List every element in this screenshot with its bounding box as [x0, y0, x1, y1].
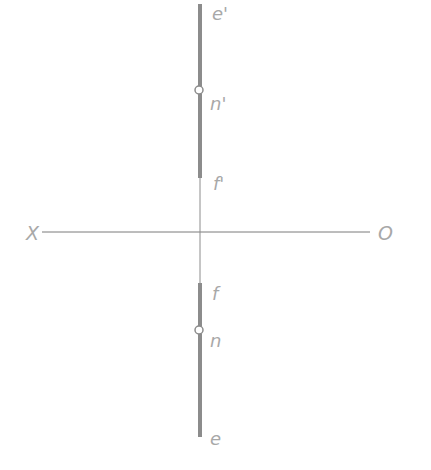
label-f: f	[212, 283, 221, 304]
label-n: n	[210, 330, 221, 351]
axis-label-x: X	[25, 222, 40, 244]
label-e-prime: e'	[212, 3, 228, 24]
point-n-prime-marker	[195, 86, 203, 94]
label-e: e	[210, 428, 221, 449]
axis-label-o: O	[378, 222, 393, 244]
projection-diagram: X O e' n' f' f n e	[0, 0, 431, 470]
label-n-prime: n'	[210, 93, 226, 114]
point-n-marker	[195, 326, 203, 334]
label-f-prime: f'	[213, 173, 224, 194]
